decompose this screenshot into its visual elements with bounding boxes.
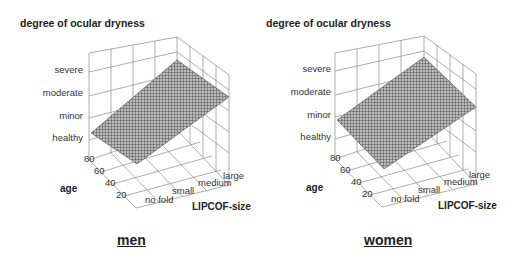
lipcof-tick-small: small [418,184,440,195]
chart-panel-women: degree of ocular dryness severe moderate… [257,0,514,264]
z-tick-moderate: moderate [291,86,331,97]
z-tick-moderate: moderate [43,87,83,98]
z-tick-severe: severe [302,63,331,74]
z-tick-severe: severe [54,64,83,75]
surface-plot-women [257,0,514,264]
age-tick-80: 80 [84,153,95,164]
age-tick-60: 60 [340,164,351,175]
lipcof-tick-no-fold: no fold [391,193,420,204]
chart-title-men: degree of ocular dryness [20,17,145,29]
caption-men: men [117,232,146,248]
lipcof-axis-title-women: LIPCOF-size [438,200,497,211]
lipcof-tick-small: small [172,185,194,196]
age-tick-40: 40 [105,177,116,188]
surface-plot-men [0,0,257,264]
age-tick-40: 40 [351,176,362,187]
age-tick-60: 60 [94,165,105,176]
lipcof-tick-large: large [223,170,244,181]
chart-panel-men: degree of ocular dryness severe moderate… [0,0,257,264]
age-axis-title-men: age [60,183,77,194]
age-axis-title-women: age [306,182,323,193]
lipcof-tick-no-fold: no fold [145,194,174,205]
lipcof-axis-title-men: LIPCOF-size [192,201,251,212]
age-tick-80: 80 [330,152,341,163]
caption-women: women [364,232,412,248]
z-tick-minor: minor [59,110,83,121]
z-tick-healthy: healthy [52,132,83,143]
lipcof-tick-large: large [469,169,490,180]
z-tick-minor: minor [307,109,331,120]
age-tick-20: 20 [116,189,127,200]
chart-title-women: degree of ocular dryness [266,17,391,29]
z-tick-healthy: healthy [300,131,331,142]
age-tick-20: 20 [362,188,373,199]
